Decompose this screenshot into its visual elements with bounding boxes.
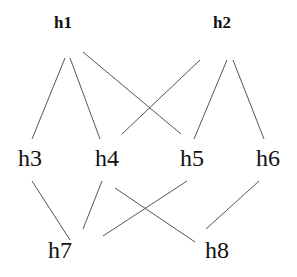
node-h5: h5 bbox=[180, 146, 204, 170]
edge-layer bbox=[0, 0, 297, 277]
node-h7: h7 bbox=[48, 238, 72, 262]
edge-h6-h8 bbox=[206, 181, 259, 229]
node-h8: h8 bbox=[205, 238, 229, 262]
node-h4: h4 bbox=[95, 146, 119, 170]
edge-h1-h3 bbox=[32, 58, 65, 139]
node-h2: h2 bbox=[213, 14, 231, 31]
edge-h2-h5 bbox=[194, 60, 227, 139]
edge-h2-h4 bbox=[122, 60, 200, 134]
edge-h1-h5 bbox=[83, 52, 181, 134]
edge-h4-h8 bbox=[115, 188, 195, 242]
edge-h3-h7 bbox=[32, 181, 70, 240]
edge-h4-h7 bbox=[83, 181, 102, 229]
node-h1: h1 bbox=[54, 14, 72, 31]
edge-h1-h4 bbox=[70, 58, 100, 139]
node-h3: h3 bbox=[18, 146, 42, 170]
node-h6: h6 bbox=[256, 146, 280, 170]
edge-h2-h6 bbox=[233, 60, 264, 139]
